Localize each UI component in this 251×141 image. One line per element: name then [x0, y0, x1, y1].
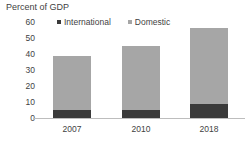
bar-group-2018 — [190, 28, 228, 118]
y-axis-tick: 30 — [11, 66, 35, 75]
bar-segment-international — [122, 110, 160, 118]
bar-segment-international — [53, 110, 91, 118]
y-axis-tick: 40 — [11, 50, 35, 59]
y-axis-tick: 0 — [11, 114, 35, 123]
y-axis-tick: 20 — [11, 82, 35, 91]
bar-segment-international — [190, 104, 228, 118]
bar-segment-domestic — [53, 56, 91, 110]
bar-group-2010 — [122, 46, 160, 118]
x-axis-tick-2018: 2018 — [179, 124, 239, 134]
y-axis-tick: 60 — [11, 18, 35, 27]
bar-segment-domestic — [190, 28, 228, 103]
x-axis-tick-2010: 2010 — [111, 124, 171, 134]
x-axis-tick-2007: 2007 — [42, 124, 102, 134]
y-axis-tick: 50 — [11, 34, 35, 43]
bar-group-2007 — [53, 56, 91, 118]
chart-container: Percent of GDP International Domestic 60… — [0, 0, 251, 141]
plot-area: 60 50 40 30 20 10 0 2007 2010 2018 — [0, 0, 251, 141]
bar-segment-domestic — [122, 46, 160, 110]
y-axis-tick: 10 — [11, 98, 35, 107]
x-axis-line — [33, 118, 245, 119]
